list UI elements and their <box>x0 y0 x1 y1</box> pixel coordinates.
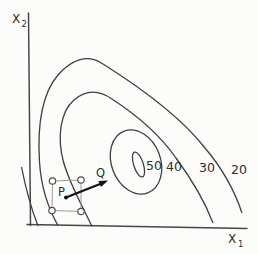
y-axis-label: X <box>12 12 20 26</box>
y-axis <box>29 13 31 226</box>
contour-label-50: 50 <box>146 158 162 173</box>
point-q-label: Q <box>96 166 105 180</box>
optimum-ellipse <box>130 151 147 179</box>
contour-line-40 <box>60 92 213 226</box>
x-axis <box>27 225 247 229</box>
figure-page: X 2 X 1 50 40 30 20 P Q <box>0 0 258 254</box>
arrowhead-icon <box>99 181 109 187</box>
contour-line-30 <box>39 59 242 226</box>
design-point-top-left <box>49 178 55 184</box>
x-axis-label: X <box>228 232 236 246</box>
design-point-top-right <box>78 177 84 183</box>
contour-label-20: 20 <box>231 162 247 177</box>
contour-label-40: 40 <box>166 159 182 174</box>
y-axis-label-subscript: 2 <box>22 19 27 29</box>
point-p-label: P <box>58 185 65 199</box>
design-point-bottom-left <box>49 207 55 213</box>
x-axis-label-subscript: 1 <box>238 239 243 249</box>
contour-label-30: 30 <box>199 160 215 175</box>
steepest-ascent-arrow <box>66 184 100 198</box>
design-point-bottom-right <box>78 208 84 214</box>
contour-plot-canvas: X 2 X 1 50 40 30 20 P Q <box>0 0 258 254</box>
